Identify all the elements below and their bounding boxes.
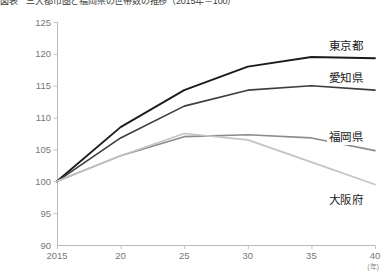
y-tick-label: 90	[40, 240, 51, 251]
x-tick-label: 40	[370, 250, 381, 261]
x-tick-label: 25	[179, 250, 190, 261]
y-tick-label: 100	[35, 176, 51, 187]
y-tick-label: 105	[35, 144, 51, 155]
series-label-fukuoka: 福岡県	[327, 127, 365, 145]
x-tick-label: 2015	[46, 250, 67, 261]
x-tick-label: 30	[243, 250, 254, 261]
y-tick-label: 120	[35, 48, 51, 59]
series-label-osaka: 大阪府	[327, 190, 365, 208]
x-tick-label: 35	[306, 250, 317, 261]
y-tick-label: 110	[36, 112, 51, 123]
x-axis-unit-label: (年)	[367, 262, 379, 271]
chart-plot-area: 909510010511011512012520152025303540(年)	[0, 0, 382, 276]
series-label-tokyo: 東京都	[327, 36, 365, 54]
y-tick-label: 115	[36, 80, 51, 91]
chart-root: 図表 三大都市圏と福岡県の世帯数の推移（2015年＝100） 909510010…	[0, 0, 382, 276]
y-tick-label: 125	[35, 17, 51, 28]
series-label-aichi: 愛知県	[327, 68, 365, 86]
y-tick-label: 95	[40, 208, 51, 219]
x-tick-label: 20	[115, 250, 126, 261]
